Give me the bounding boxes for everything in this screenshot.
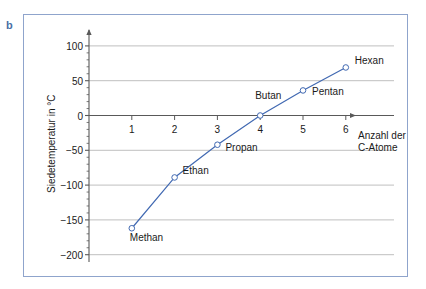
y-tick-label: −50 [37,145,83,156]
x-tick-label: 3 [215,124,221,135]
x-axis-line [89,113,356,118]
data-point-marker [129,225,135,231]
y-tick-label: −100 [37,180,83,191]
data-point-marker [343,65,349,71]
x-axis-title-line1: Anzahl der [358,130,418,142]
x-tick-label: 6 [343,124,349,135]
x-axis-title: Anzahl der C-Atome [358,130,418,154]
x-axis-ticks [132,116,346,121]
data-point-label: Pentan [312,86,344,97]
y-axis-arrow [86,29,91,35]
data-point-label: Butan [255,90,281,101]
y-tick-label: 100 [37,40,83,51]
y-axis-major-ticks [85,46,89,255]
data-point-marker [172,175,178,181]
x-tick-label: 2 [172,124,178,135]
data-point-label: Hexan [355,55,384,66]
x-tick-label: 5 [300,124,306,135]
x-tick-label: 1 [129,124,135,135]
data-point-label: Ethan [183,165,209,176]
data-point-marker [215,142,221,148]
data-point-label: Propan [225,142,257,153]
x-axis-title-line2: C-Atome [358,142,418,154]
y-tick-label: 50 [37,75,83,86]
figure-screenshot: b Siedetemperatur in °C Anzahl der C-Ato… [0,0,426,289]
y-tick-label: 0 [37,110,83,121]
data-point-label: Methan [130,232,163,243]
data-point-marker [257,113,263,119]
data-point-marker [300,88,306,94]
x-tick-label: 4 [257,124,263,135]
y-tick-label: −150 [37,214,83,225]
x-axis-arrow [350,113,356,118]
y-tick-label: −200 [37,249,83,260]
